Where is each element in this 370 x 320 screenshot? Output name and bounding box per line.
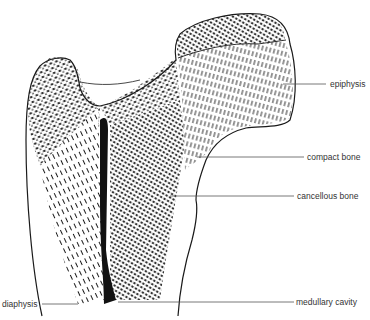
label-compact-bone: compact bone [307, 152, 360, 162]
neck-line [80, 80, 140, 84]
label-cancellous-bone: cancellous bone [297, 191, 358, 201]
head-interior [178, 40, 293, 170]
label-diaphysis: diaphysis [2, 299, 37, 309]
label-epiphysis: epiphysis [330, 79, 365, 89]
label-medullary-cavity: medullary cavity [296, 297, 357, 307]
